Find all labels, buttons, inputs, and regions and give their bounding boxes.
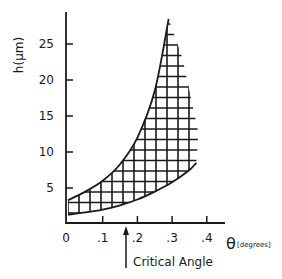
upper-bound-curve [68, 19, 169, 200]
x-axis-symbol: θ [226, 234, 236, 253]
chart: 510152025 0.1.2.3.4 h(μm) θ [degrees] Cr… [0, 0, 282, 279]
y-tick-label: 25 [39, 37, 54, 51]
critical-angle-label: Critical Angle [133, 255, 213, 269]
x-ticks: 0.1.2.3.4 [62, 216, 212, 245]
y-axis-label: h(μm) [12, 37, 26, 73]
x-tick-label: .2 [132, 231, 143, 245]
y-tick-label: 10 [39, 145, 54, 159]
x-tick-label: .1 [97, 231, 108, 245]
x-tick-label: 0 [62, 231, 70, 245]
x-tick-label: .3 [166, 231, 177, 245]
y-ticks: 510152025 [39, 37, 73, 195]
x-axis-unit: [degrees] [237, 241, 271, 249]
y-tick-label: 20 [39, 73, 54, 87]
y-tick-label: 5 [46, 181, 54, 195]
y-tick-label: 15 [39, 109, 54, 123]
crosshatch-fill [68, 10, 210, 224]
arrow-up-icon [123, 226, 129, 235]
x-tick-label: .4 [201, 231, 212, 245]
